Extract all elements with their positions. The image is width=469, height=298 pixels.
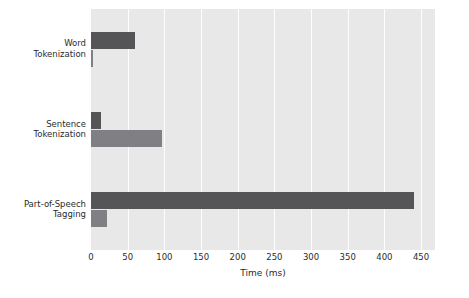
gridline-x-350	[348, 9, 349, 250]
bar-chart: Word TokenizationSentence TokenizationPa…	[0, 0, 469, 298]
x-tick-350: 350	[340, 252, 356, 262]
x-tick-100: 100	[156, 252, 172, 262]
bar-1-2	[91, 210, 107, 227]
bar-0-1	[91, 112, 101, 129]
gridline-x-100	[164, 9, 165, 250]
x-tick-150: 150	[193, 252, 209, 262]
x-tick-300: 300	[303, 252, 319, 262]
y-axis-category-labels: Word TokenizationSentence TokenizationPa…	[0, 9, 86, 250]
gridline-x-450	[421, 9, 422, 250]
bar-1-0	[91, 50, 93, 67]
x-axis-tick-labels: 050100150200250300350400450	[91, 252, 435, 266]
gridline-x-300	[311, 9, 312, 250]
x-tick-0: 0	[88, 252, 93, 262]
x-tick-450: 450	[413, 252, 429, 262]
y-axis-label-2: Part-of-Speech Tagging	[0, 199, 86, 220]
y-axis-label-1: Sentence Tokenization	[0, 119, 86, 140]
y-axis-label-0: Word Tokenization	[0, 38, 86, 59]
x-tick-250: 250	[266, 252, 282, 262]
gridline-x-150	[201, 9, 202, 250]
x-axis-title: Time (ms)	[91, 268, 435, 278]
bar-1-1	[91, 130, 162, 147]
x-tick-200: 200	[230, 252, 246, 262]
x-tick-50: 50	[122, 252, 133, 262]
gridline-x-400	[384, 9, 385, 250]
gridline-x-250	[274, 9, 275, 250]
gridline-x-200	[238, 9, 239, 250]
plot-area	[91, 9, 435, 250]
x-tick-400: 400	[376, 252, 392, 262]
bar-0-2	[91, 192, 414, 209]
bar-0-0	[91, 32, 135, 49]
